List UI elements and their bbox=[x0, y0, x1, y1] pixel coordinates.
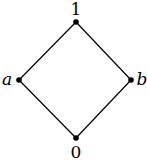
label-top: 1 bbox=[71, 0, 82, 19]
node-bottom bbox=[73, 135, 79, 141]
edge-b-bottom bbox=[76, 80, 131, 138]
lattice-diagram: 1 a b 0 bbox=[0, 0, 147, 161]
nodes bbox=[16, 19, 134, 141]
node-top bbox=[73, 19, 79, 25]
label-bottom: 0 bbox=[71, 142, 82, 161]
label-a: a bbox=[2, 69, 12, 89]
edge-a-bottom bbox=[19, 80, 76, 138]
node-a bbox=[16, 77, 22, 83]
label-b: b bbox=[137, 69, 147, 89]
edge-top-b bbox=[76, 22, 131, 80]
edge-top-a bbox=[19, 22, 76, 80]
node-b bbox=[128, 77, 134, 83]
edges bbox=[19, 22, 131, 138]
